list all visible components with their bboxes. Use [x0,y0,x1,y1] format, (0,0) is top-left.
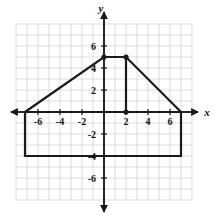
x-tick-label: -4 [56,116,64,127]
x-tick-label: 6 [168,116,173,127]
marker-peak-left [101,54,106,59]
x-axis-label: x [203,106,210,118]
y-tick-label: 2 [91,85,96,96]
marker-foot-at-x2 [123,109,128,114]
y-tick-label: -6 [88,173,96,184]
figure-background [0,0,216,220]
x-tick-label: -6 [34,116,42,127]
x-tick-label: 2 [124,116,129,127]
y-axis-label: y [97,2,104,14]
y-tick-label: -2 [88,129,96,140]
y-tick-label: 4 [91,63,96,74]
x-tick-label: 4 [146,116,151,127]
coordinate-plane-figure: -6 -4 -2 2 4 6 6 4 2 -2 -4 -6 x y [0,0,216,220]
marker-peak-right [123,54,128,59]
x-tick-label: -2 [78,116,86,127]
y-tick-label: -4 [88,151,96,162]
y-tick-label: 6 [91,41,96,52]
